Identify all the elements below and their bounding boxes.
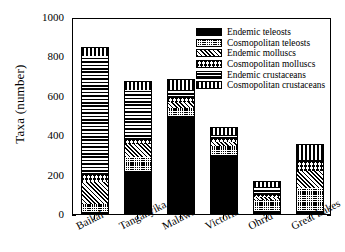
bar-baikal[interactable]: [81, 47, 109, 214]
bar-segment: [210, 142, 238, 146]
bar-segment: [296, 162, 324, 171]
legend-label: Cosmopolitan crustaceans: [227, 80, 325, 90]
bar-segment: [210, 146, 238, 155]
bar-segment: [81, 47, 109, 57]
bar-segment: [296, 171, 324, 189]
bar-segment: [81, 175, 109, 182]
y-tick-label: 400: [48, 129, 65, 141]
bar-segment: [167, 116, 195, 215]
bar-segment: [167, 102, 195, 108]
legend-label: Endemic crustaceans: [227, 70, 306, 80]
legend-swatch: [196, 71, 222, 79]
legend-label: Endemic teleosts: [227, 27, 291, 37]
bar-great-lakes[interactable]: [296, 144, 324, 214]
bar-segment: [296, 160, 324, 162]
bar-segment: [253, 181, 281, 188]
legend-swatch: [196, 81, 222, 89]
y-tick-label: 0: [59, 208, 65, 220]
legend-swatch: [196, 39, 222, 47]
legend-swatch: [196, 60, 222, 68]
legend-item: Endemic molluscs: [196, 48, 328, 58]
y-tick-label: 800: [48, 50, 65, 62]
bar-segment: [167, 90, 195, 98]
chart-legend: Endemic teleostsCosmopolitan teleostsEnd…: [196, 27, 328, 90]
bar-segment: [210, 139, 238, 142]
y-tick-label: 600: [48, 90, 65, 102]
y-axis-label: Taxa (number): [12, 29, 28, 179]
y-tick-label: 1000: [42, 11, 64, 23]
legend-item: Endemic crustaceans: [196, 69, 328, 79]
legend-label: Cosmopolitan teleosts: [227, 38, 310, 48]
bar-segment: [81, 56, 109, 174]
bar-segment: [210, 135, 238, 139]
bar-segment: [124, 90, 152, 140]
bar-victoria[interactable]: [210, 127, 238, 214]
bar-segment: [124, 140, 152, 144]
legend-item: Cosmopolitan teleosts: [196, 38, 328, 48]
bar-segment: [296, 144, 324, 160]
bar-segment: [81, 182, 109, 205]
bar-segment: [124, 157, 152, 171]
chart-figure: Taxa (number) 02004006008001000 BaikalTa…: [0, 0, 345, 252]
bar-segment: [167, 79, 195, 90]
bar-segment: [253, 197, 281, 200]
bar-malawi[interactable]: [167, 79, 195, 214]
legend-item: Endemic teleosts: [196, 27, 328, 37]
legend-label: Endemic molluscs: [227, 48, 296, 58]
bar-segment: [124, 81, 152, 90]
legend-label: Cosmopolitan molluscs: [227, 59, 315, 69]
bar-segment: [253, 195, 281, 197]
bar-segment: [210, 127, 238, 135]
bar-tanganyika[interactable]: [124, 81, 152, 214]
bar-segment: [253, 187, 281, 195]
bar-segment: [167, 108, 195, 116]
y-tick-label: 200: [48, 169, 65, 181]
legend-swatch: [196, 49, 222, 57]
legend-item: Cosmopolitan molluscs: [196, 59, 328, 69]
bar-segment: [124, 144, 152, 157]
legend-swatch: [196, 28, 222, 36]
bar-segment: [167, 98, 195, 102]
legend-item: Cosmopolitan crustaceans: [196, 80, 328, 90]
